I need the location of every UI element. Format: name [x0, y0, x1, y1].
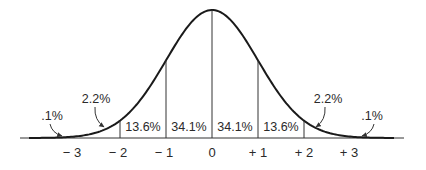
band-label-0-pos1: 34.1% — [217, 120, 252, 134]
band-label-neg2-neg1: 13.6% — [125, 120, 160, 134]
tick-label-pos2: + 2 — [295, 145, 313, 160]
tick-label-pos1: + 1 — [249, 145, 267, 160]
band-label-neg1-0: 34.1% — [171, 120, 206, 134]
tick-label-pos3: + 3 — [340, 145, 358, 160]
band-label-pos1-pos2: 13.6% — [263, 120, 298, 134]
arrow-right-2sd — [316, 107, 325, 127]
arrow-right-tail — [362, 124, 374, 136]
arrow-left-2sd — [95, 107, 104, 127]
tick-label-neg1: − 1 — [155, 145, 173, 160]
normal-distribution-chart: 13.6% 34.1% 34.1% 13.6% .1% 2.2% 2.2% .1… — [0, 0, 426, 170]
tick-label-neg3: − 3 — [63, 145, 81, 160]
arrow-left-tail — [50, 124, 62, 136]
sd-lines — [74, 10, 350, 138]
callout-right-tail: .1% — [361, 109, 383, 123]
tick-label-0: 0 — [208, 145, 215, 160]
callout-left-2sd: 2.2% — [82, 92, 111, 106]
callout-right-2sd: 2.2% — [314, 92, 343, 106]
callout-left-tail: .1% — [41, 109, 63, 123]
x-tick-labels: − 3 − 2 − 1 0 + 1 + 2 + 3 — [63, 145, 358, 160]
tick-label-neg2: − 2 — [109, 145, 127, 160]
